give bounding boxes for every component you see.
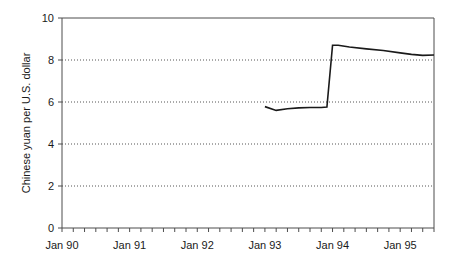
y-axis-title: Chinese yuan per U.S. dollar [20,52,32,193]
chart-container: 0246810 Jan 90Jan 91Jan 92Jan 93Jan 94Ja… [0,0,456,274]
y-tick-label-0: 0 [48,222,54,234]
x-tick-label-jan-91: Jan 91 [113,239,146,251]
x-tick-label-jan-90: Jan 90 [45,239,78,251]
x-tick-label-jan-94: Jan 94 [316,239,349,251]
x-tick-label-jan-93: Jan 93 [248,239,281,251]
x-tick-label-jan-95: Jan 95 [384,239,417,251]
line-chart: 0246810 Jan 90Jan 91Jan 92Jan 93Jan 94Ja… [0,0,456,274]
y-tick-label-2: 2 [48,180,54,192]
y-tick-label-4: 4 [48,138,54,150]
y-tick-label-10: 10 [42,12,54,24]
x-tick-label-jan-92: Jan 92 [181,239,214,251]
chart-background [0,0,456,274]
y-tick-label-6: 6 [48,96,54,108]
y-tick-label-8: 8 [48,54,54,66]
